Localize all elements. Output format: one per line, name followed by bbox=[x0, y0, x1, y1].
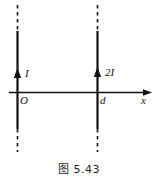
figure-caption: 图 5.43 bbox=[0, 160, 158, 176]
right-wire-current-label: 2I bbox=[105, 67, 114, 78]
origin-label: O bbox=[20, 95, 28, 106]
left-wire-current-label: I bbox=[25, 68, 29, 79]
x-axis-label: x bbox=[141, 95, 146, 106]
figure-container: I 2I O d x 图 5.43 bbox=[0, 0, 158, 182]
physics-diagram bbox=[0, 0, 158, 158]
distance-label: d bbox=[100, 95, 106, 106]
left-wire-current-arrow-icon bbox=[14, 68, 21, 78]
right-wire-current-arrow-icon bbox=[94, 67, 101, 77]
